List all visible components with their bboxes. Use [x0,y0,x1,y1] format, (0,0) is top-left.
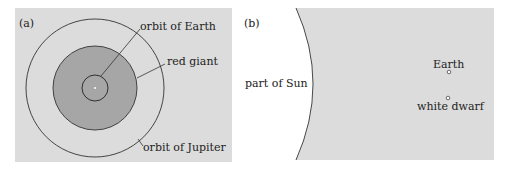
diagram: (a) orbit of Earth red giant orbit of Ju… [0,0,508,171]
panel-b-label: (b) [244,17,260,30]
earth-label: Earth [433,58,464,71]
panel-a: (a) orbit of Earth red giant orbit of Ju… [15,8,232,162]
earth-dot [447,70,451,74]
sun-dot [94,87,96,89]
orbit-jupiter-label: orbit of Jupiter [143,141,227,154]
panel-a-label: (a) [19,17,34,30]
sun-label: part of Sun [245,77,308,90]
red-giant-label: red giant [167,55,219,68]
panel-b: (b) part of Sun Earth white dwarf [240,8,494,160]
orbit-earth-label: orbit of Earth [140,20,216,33]
white-dwarf-label: white dwarf [417,100,485,113]
